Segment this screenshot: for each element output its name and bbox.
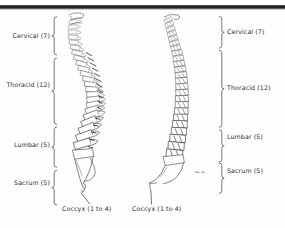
left-label-lumbar: Lumbar (5) [2,142,50,148]
left-cervical-vertebrae [68,13,85,53]
coccyx-leader-lines [81,190,152,205]
right-region-brackets [219,17,224,194]
right-thoracic-vertebrae [172,50,189,122]
left-label-coccyx: Coccyx (1 to 4) [62,206,111,212]
left-thoracic-vertebrae [71,49,106,115]
left-bracket-lumbar [52,127,57,167]
left-spine-lateral [68,13,106,193]
right-bracket-thoracic [219,50,224,127]
right-cervical-vertebrae [164,14,181,51]
left-label-sacrum: Sacrum (5) [2,180,50,186]
right-bracket-sacrum [219,163,224,193]
right-label-coccyx: Coccyx (1 to 4) [132,206,181,212]
right-label-thoracic: Thoracid (12) [227,85,271,91]
right-lumbar-vertebrae [165,119,188,159]
left-bracket-cervical [52,17,57,55]
left-bracket-thoracic [52,58,57,124]
left-coccyx-leader [81,193,90,205]
right-sacrum-coccyx [149,155,204,190]
left-label-cervical: Cervical (7) [2,33,50,39]
right-coccyx-leader [151,190,152,205]
right-label-cervical: Cervical (7) [227,29,265,35]
left-lumbar-vertebrae [73,108,106,150]
left-sacrum-coccyx [72,149,95,193]
right-bracket-cervical [219,17,224,49]
right-spine-posterior [149,14,204,189]
left-region-brackets [52,17,57,205]
left-bracket-sacrum [52,170,57,205]
vertebral-column-figure: Cervical (7) Thoracid (12) Lumbar (5) Sa… [0,0,285,228]
right-label-lumbar: Lumbar (5) [227,134,263,140]
left-label-thoracic: Thoracid (12) [0,82,50,88]
right-bracket-lumbar [219,130,224,162]
right-label-sacrum: Sacrum (5) [227,168,263,174]
